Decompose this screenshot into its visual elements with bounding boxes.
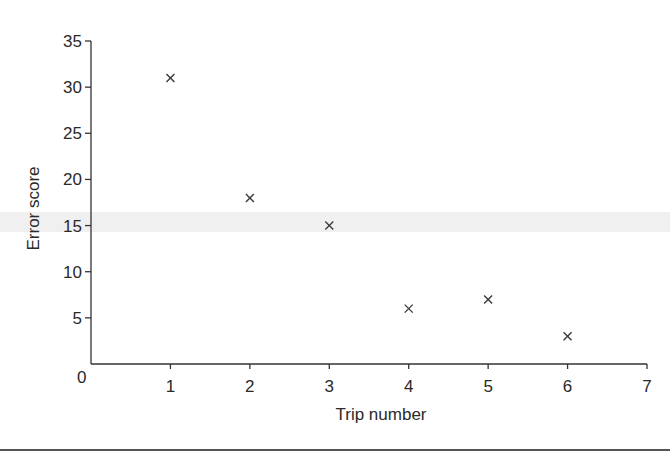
x-tick-label: 7 [642, 377, 651, 396]
y-tick-label: 25 [63, 124, 82, 143]
x-marker-icon [564, 332, 572, 340]
scan-smudge [0, 212, 670, 232]
y-tick-label: 35 [63, 32, 82, 51]
y-tick-label: 15 [63, 217, 82, 236]
scatter-chart: 5101520253035 1234567 0 Trip number Erro… [0, 0, 670, 461]
data-points [166, 74, 571, 340]
x-axis-label: Trip number [335, 405, 426, 424]
x-marker-icon [484, 295, 492, 303]
y-tick-label: 20 [63, 170, 82, 189]
y-tick-label: 10 [63, 263, 82, 282]
x-tick-label: 4 [404, 377, 413, 396]
x-tick-label: 6 [563, 377, 572, 396]
x-tick-label: 2 [245, 377, 254, 396]
x-tick-label: 3 [325, 377, 334, 396]
x-marker-icon [246, 194, 254, 202]
y-tick-label: 30 [63, 78, 82, 97]
x-tick-label: 1 [166, 377, 175, 396]
x-marker-icon [166, 74, 174, 82]
x-tick-label: 5 [483, 377, 492, 396]
y-axis-ticks: 5101520253035 [63, 32, 91, 328]
origin-label: 0 [77, 368, 86, 387]
y-axis-label: Error score [24, 166, 43, 250]
x-marker-icon [405, 305, 413, 313]
y-tick-label: 5 [73, 309, 82, 328]
x-axis-ticks: 1234567 [166, 364, 652, 396]
